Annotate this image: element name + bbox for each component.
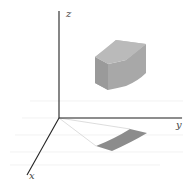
z-axis-label: z xyxy=(65,8,72,19)
x-axis xyxy=(27,118,59,175)
xy-plane-grid xyxy=(10,101,183,165)
x-axis-label: x xyxy=(29,170,35,181)
diagram-canvas: z y x xyxy=(0,0,195,189)
axes xyxy=(27,11,182,175)
projection-region xyxy=(96,129,147,151)
y-axis-label: y xyxy=(175,119,182,130)
curved-box-solid xyxy=(95,40,146,90)
